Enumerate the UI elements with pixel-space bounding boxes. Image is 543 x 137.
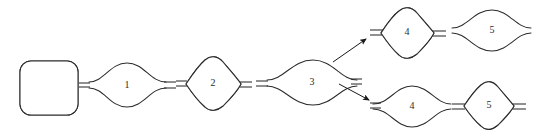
start-block-outline-top	[20, 61, 78, 115]
lead-stage1-to-stage2	[164, 81, 187, 88]
lead-start-to-stage1	[79, 83, 90, 87]
stage-5-lower-label: 5	[487, 99, 492, 110]
stage-4-lower-label: 4	[410, 100, 415, 111]
stage-5-upper-arc-bottom	[452, 33, 531, 51]
node-stage-3[interactable]: 3	[267, 60, 357, 105]
lead-lower-stage5-right	[513, 104, 526, 109]
node-stage-5-lower[interactable]: 5	[464, 82, 514, 129]
stage-4-upper-label: 4	[405, 26, 410, 37]
stage-4-lower-arc-bottom	[373, 109, 451, 127]
node-stage-4-lower[interactable]: 4	[373, 86, 451, 127]
node-stage-2[interactable]: 2	[186, 57, 241, 110]
lead-lower-stage5-left	[452, 104, 465, 109]
diagram-canvas: 1 2 3	[0, 0, 543, 137]
stage-3-lower-arc	[267, 86, 357, 105]
stage-5-upper-label: 5	[490, 24, 495, 35]
node-stage-1[interactable]: 1	[89, 63, 166, 107]
process-sequence-figure: 1 2 3	[0, 0, 543, 137]
lead-stage2-to-stage3	[240, 81, 268, 87]
stage-3-label: 3	[310, 76, 315, 87]
lead-upper-stage4-right	[433, 31, 446, 36]
node-stage-5-upper[interactable]: 5	[452, 10, 531, 51]
node-stage-4-upper[interactable]: 4	[381, 8, 434, 58]
node-start-block[interactable]	[20, 61, 78, 115]
branch-arrow-up	[333, 39, 366, 62]
stage-2-label: 2	[211, 77, 216, 88]
stage-1-label: 1	[125, 79, 130, 90]
stage-1-lower-arc	[89, 88, 166, 107]
